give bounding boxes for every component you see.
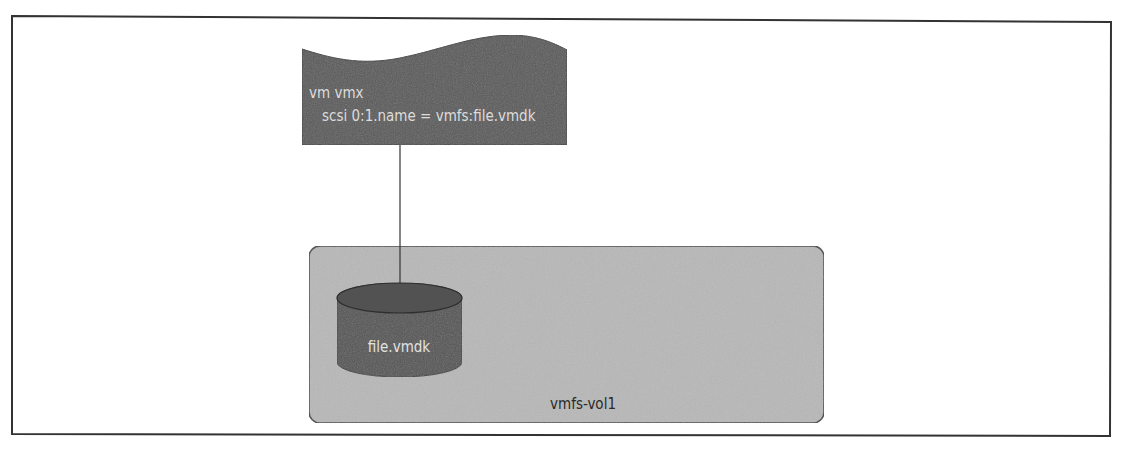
config-file-entry: scsi 0:1.name = vmfs:file.vmdk (322, 107, 536, 125)
vmx-config-document[interactable]: vm vmx scsi 0:1.name = vmfs:file.vmdk (302, 35, 567, 145)
vmdk-disk-cylinder[interactable]: file.vmdk (337, 283, 462, 377)
diagram-canvas: vmfs-vol1 vm vmx scsi 0:1.name = vmfs:fi… (0, 0, 1123, 453)
config-file-title: vm vmx (309, 84, 364, 102)
volume-label: vmfs-vol1 (550, 395, 616, 413)
disk-file-label: file.vmdk (368, 338, 431, 356)
